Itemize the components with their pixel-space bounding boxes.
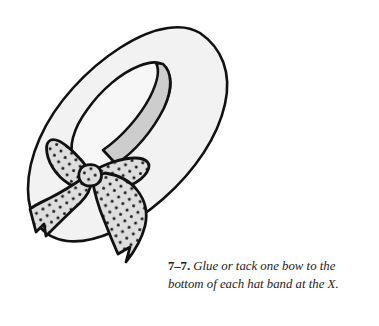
hat-with-polka-dot-bow-illustration (0, 0, 260, 290)
figure-page: 7–7. Glue or tack one bow to the bottom … (0, 0, 379, 326)
figure-caption: 7–7. Glue or tack one bow to the bottom … (168, 258, 368, 293)
caption-number: 7–7. (168, 259, 190, 273)
bow-knot (79, 165, 102, 186)
caption-text: Glue or tack one bow to the bottom of ea… (168, 259, 339, 291)
